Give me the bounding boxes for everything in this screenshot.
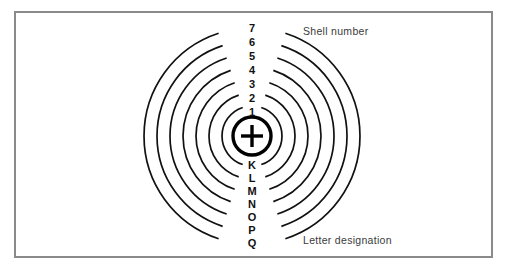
- letter-designation-O: O: [248, 211, 257, 223]
- shell-diagram-svg: 1234567 KLMNOPQ Shell number Letter desi…: [0, 0, 509, 271]
- nucleus: [233, 117, 271, 155]
- shell-number-5: 5: [249, 50, 255, 62]
- shell-arc-left-4: [183, 70, 231, 201]
- letter-designation-labels: KLMNOPQ: [247, 159, 256, 249]
- shell-arc-left-6: [157, 46, 223, 227]
- shell-number-2: 2: [249, 92, 255, 104]
- shell-arc-right-7: [285, 33, 360, 238]
- figure-root: 1234567 KLMNOPQ Shell number Letter desi…: [0, 0, 509, 271]
- shell-number-1: 1: [249, 106, 255, 118]
- letter-designation-K: K: [248, 159, 256, 171]
- shell-number-4: 4: [249, 64, 256, 76]
- letter-designation-P: P: [248, 224, 255, 236]
- letter-designation-N: N: [248, 198, 256, 210]
- letter-designation-L: L: [249, 172, 256, 184]
- annotation-shell-number: Shell number: [303, 25, 369, 37]
- letter-designation-Q: Q: [248, 237, 257, 249]
- shell-arc-right-4: [273, 70, 321, 201]
- shell-arc-right-5: [277, 58, 334, 214]
- shell-arc-right-6: [281, 46, 347, 227]
- shell-number-7: 7: [249, 22, 255, 34]
- letter-designation-M: M: [247, 185, 256, 197]
- annotation-letter-designation: Letter designation: [303, 234, 392, 246]
- shell-arc-left-7: [144, 33, 219, 238]
- shell-arc-left-5: [170, 58, 227, 214]
- shell-number-labels: 1234567: [249, 22, 256, 118]
- shell-number-6: 6: [249, 36, 255, 48]
- shell-number-3: 3: [249, 78, 255, 90]
